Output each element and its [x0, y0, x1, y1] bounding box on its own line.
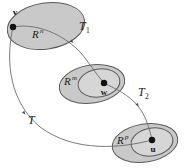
linear-transformation-diagram: v w u R n R m R p T 1 T: [0, 0, 184, 168]
v-dot: [10, 24, 16, 30]
T-label-base: T: [28, 113, 36, 127]
point-u: u: [149, 137, 156, 154]
w-dot: [101, 80, 107, 86]
middle-label-exponent: m: [72, 74, 77, 82]
domain-label-base: R: [31, 28, 39, 40]
u-dot: [149, 137, 155, 143]
codomain-label-base: R: [116, 134, 124, 146]
point-w: w: [101, 80, 108, 97]
map-label-T2: T 2: [138, 85, 149, 101]
v-label: v: [13, 7, 18, 17]
u-label: u: [150, 144, 155, 154]
codomain-label-exponent: p: [124, 133, 129, 141]
T1-label-subscript: 1: [86, 26, 90, 35]
T2-label-subscript: 2: [145, 92, 149, 101]
map-label-T: T: [28, 113, 36, 127]
diagram-canvas: v w u R n R m R p T 1 T: [0, 0, 184, 168]
middle-label-base: R: [63, 75, 71, 87]
w-label: w: [101, 87, 108, 97]
map-label-T1: T 1: [79, 19, 90, 35]
domain-label-exponent: n: [40, 27, 44, 35]
